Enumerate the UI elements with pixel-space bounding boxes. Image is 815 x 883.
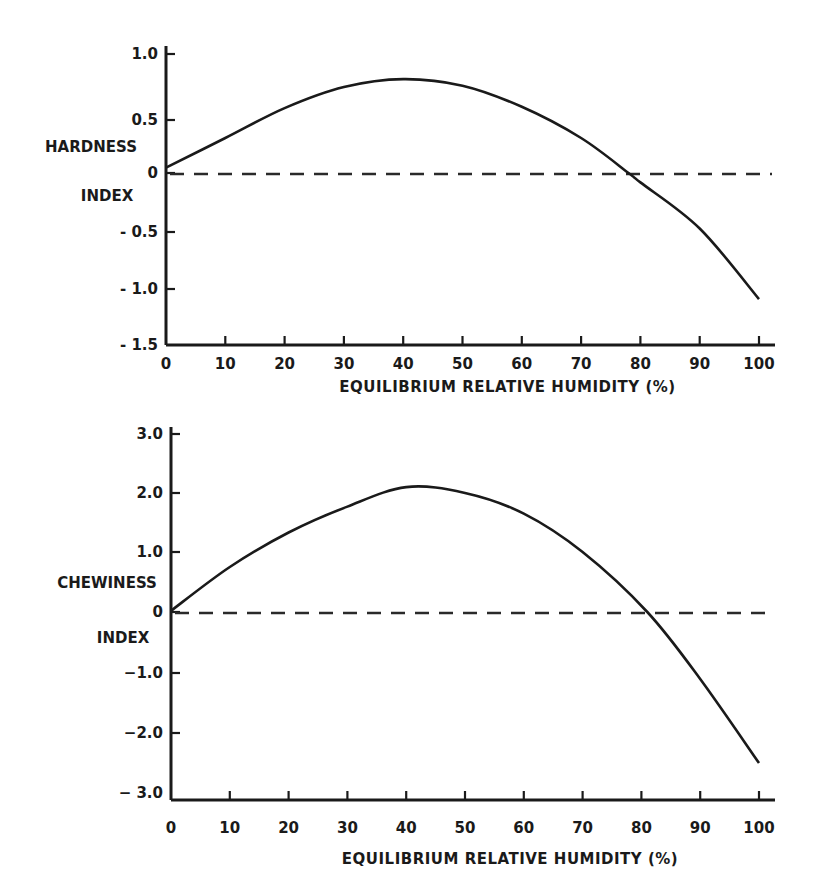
x-tick-label: 20	[278, 819, 299, 837]
y-tick-label: −1.0	[124, 664, 163, 682]
figure: 1.00.50- 0.5- 1.0- 1.5010203040506070809…	[0, 0, 815, 883]
x-tick-label: 80	[630, 355, 651, 373]
x-tick-label: 20	[274, 355, 295, 373]
x-tick-label: 40	[393, 355, 414, 373]
x-tick-label: 70	[571, 355, 592, 373]
hardness-chart: 1.00.50- 0.5- 1.0- 1.5010203040506070809…	[45, 45, 775, 396]
y-axis-title-line-1: HARDNESS	[45, 138, 137, 156]
x-tick-label: 90	[689, 355, 710, 373]
y-tick-label: - 0.5	[120, 223, 158, 241]
y-tick-label: 0.5	[131, 111, 158, 129]
y-axis-title-line-1: CHEWINESS	[57, 574, 157, 592]
x-tick-label: 40	[396, 819, 417, 837]
x-tick-label: 0	[161, 355, 171, 373]
y-tick-label: 2.0	[136, 484, 163, 502]
y-tick-label: 3.0	[136, 425, 163, 443]
x-tick-label: 50	[455, 819, 476, 837]
y-axis-title-line-2: INDEX	[81, 187, 134, 205]
x-tick-label: 60	[513, 819, 534, 837]
x-axis-title: EQUILIBRIUM RELATIVE HUMIDITY (%)	[342, 850, 678, 868]
y-axis-title-line-2: INDEX	[97, 629, 150, 647]
x-tick-label: 80	[631, 819, 652, 837]
chewiness-chart: 3.02.01.00−1.0−2.0− 3.001020304050607080…	[57, 425, 775, 868]
data-curve	[171, 486, 759, 763]
y-tick-label: 1.0	[131, 45, 158, 63]
x-axis-title: EQUILIBRIUM RELATIVE HUMIDITY (%)	[339, 378, 675, 396]
x-tick-label: 30	[333, 355, 354, 373]
y-tick-label: - 1.0	[120, 280, 158, 298]
data-curve	[166, 79, 759, 299]
x-tick-label: 90	[690, 819, 711, 837]
y-tick-label: - 1.5	[120, 336, 158, 354]
y-tick-label: 1.0	[136, 543, 163, 561]
y-tick-label: 0	[148, 164, 158, 182]
y-tick-label: − 3.0	[119, 784, 163, 802]
y-tick-label: 0	[153, 603, 163, 621]
y-tick-label: −2.0	[124, 724, 163, 742]
x-tick-label: 100	[743, 819, 774, 837]
x-tick-label: 10	[219, 819, 240, 837]
x-tick-label: 30	[337, 819, 358, 837]
x-tick-label: 70	[572, 819, 593, 837]
x-tick-label: 10	[215, 355, 236, 373]
x-tick-label: 100	[743, 355, 774, 373]
x-tick-label: 50	[452, 355, 473, 373]
x-tick-label: 0	[166, 819, 176, 837]
x-tick-label: 60	[511, 355, 532, 373]
